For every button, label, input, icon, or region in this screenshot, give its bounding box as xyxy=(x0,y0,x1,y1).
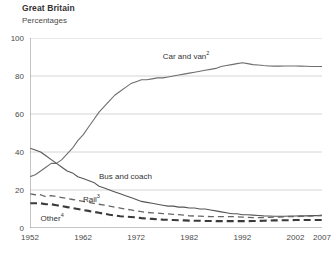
series-label-footnote-marker: 2 xyxy=(206,50,209,56)
series-line-car-and-van xyxy=(30,63,322,177)
series-line-bus-and-coach xyxy=(30,148,322,216)
chart-figure: Great Britain Percentages 020406080100 1… xyxy=(0,0,336,256)
chart-subtitle: Percentages xyxy=(22,16,67,25)
x-axis-tick-label: 1962 xyxy=(74,233,92,242)
series-label-text: Rail xyxy=(83,195,97,204)
x-axis-tick-label: 2007 xyxy=(313,233,331,242)
page-title: Great Britain xyxy=(22,3,75,13)
y-axis-tick-label: 100 xyxy=(2,34,24,43)
x-axis-tick-label: 1952 xyxy=(21,233,39,242)
series-label-footnote-marker: 3 xyxy=(97,193,100,199)
series-label-text: Car and van xyxy=(163,52,207,61)
y-axis-tick-label: 60 xyxy=(2,110,24,119)
series-lines xyxy=(30,63,322,221)
y-axis-tick-label: 0 xyxy=(2,224,24,233)
y-axis-tick-label: 40 xyxy=(2,148,24,157)
series-annotation-car-and-van: Car and van2 xyxy=(163,52,210,61)
x-axis-tick-label: 2002 xyxy=(287,233,305,242)
series-label-footnote-marker: 4 xyxy=(61,213,64,219)
x-axis-tick-label: 1992 xyxy=(233,233,251,242)
series-annotation-other: Other4 xyxy=(41,214,64,223)
series-label-text: Bus and coach xyxy=(99,172,152,181)
x-axis-tick-label: 1982 xyxy=(180,233,198,242)
chart-svg xyxy=(30,38,322,228)
y-axis-tick-label: 20 xyxy=(2,186,24,195)
y-axis-tick-label: 80 xyxy=(2,72,24,81)
series-annotation-rail: Rail3 xyxy=(83,195,100,204)
series-line-rail xyxy=(30,194,322,218)
series-label-text: Other xyxy=(41,214,61,223)
series-line-other xyxy=(30,203,322,221)
plot-area xyxy=(30,38,322,228)
x-axis-tick-label: 1972 xyxy=(127,233,145,242)
series-annotation-bus-and-coach: Bus and coach xyxy=(99,172,152,181)
